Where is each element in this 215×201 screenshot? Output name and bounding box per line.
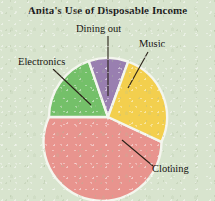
page-title: Anita's Use of Disposable Income [0, 4, 215, 16]
pie-label-dining-out: Dining out [76, 23, 121, 34]
pie-label-electronics: Electronics [18, 56, 65, 67]
pie-label-music: Music [139, 38, 165, 49]
pie-label-clothing: Clothing [152, 163, 189, 174]
